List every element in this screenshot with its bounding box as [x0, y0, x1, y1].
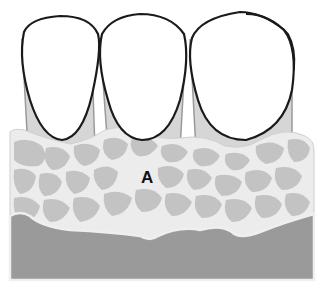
tooth-crowns — [22, 12, 294, 140]
label-A: A — [141, 168, 153, 188]
cellular-tissue — [10, 127, 314, 240]
dental-diagram — [0, 0, 324, 291]
